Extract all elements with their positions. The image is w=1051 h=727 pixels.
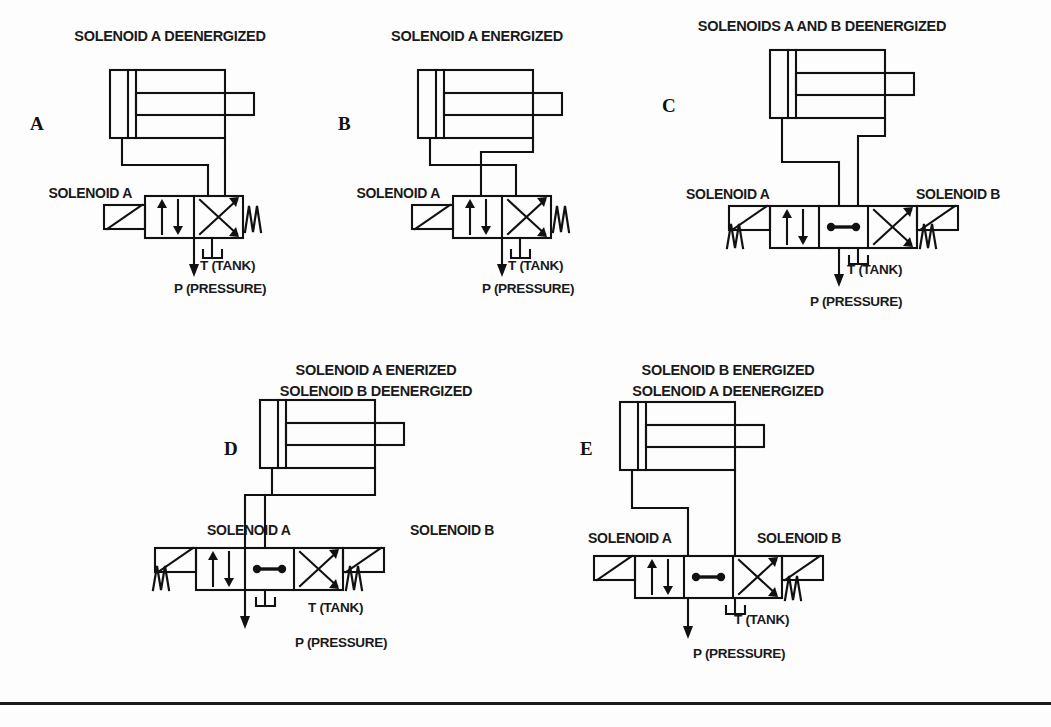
valve-b [412, 196, 569, 238]
plumbing-c [782, 118, 885, 206]
valve-d-box-crossed [300, 549, 339, 589]
ports-a [189, 238, 222, 277]
valve-e-box-crossed [739, 557, 778, 597]
valve-a-box-crossed [200, 197, 239, 237]
spring-b [553, 206, 569, 232]
cylinder-a [110, 70, 254, 138]
panel-c-schematic [600, 0, 1051, 330]
panel-a: SOLENOID A DEENERGIZED A SOLENOID A T (T… [0, 0, 330, 320]
valve-b-box-crossed [508, 197, 547, 237]
plumbing-d [245, 468, 375, 548]
solenoid-actuator-b [412, 205, 453, 229]
cylinder-b [418, 70, 562, 138]
ports-d [240, 590, 275, 629]
valve-c-box-parallel [782, 209, 808, 245]
valve-c-box-closed-center [827, 223, 860, 231]
valve-c [727, 206, 958, 248]
cylinder-d [260, 400, 404, 468]
solenoid-actuator-e-left [594, 556, 635, 580]
panel-c: SOLENOIDS A AND B DEENERGIZED C SOLENOID… [600, 0, 1051, 330]
plumbing-b [430, 138, 533, 196]
valve-d-box-closed-center [253, 565, 286, 573]
panel-e: SOLENOID B ENERGIZED SOLENOID A DEENERGI… [530, 350, 970, 680]
valve-c-box-crossed [874, 207, 913, 247]
solenoid-actuator-a [104, 205, 145, 229]
valve-e-box-parallel [647, 559, 673, 595]
spring-c-right [920, 224, 936, 248]
panel-b: SOLENOID A ENERGIZED B SOLENOID A T (TAN… [295, 0, 625, 320]
cylinder-c [770, 50, 914, 118]
panel-b-schematic [295, 0, 625, 320]
ports-b [497, 238, 530, 277]
spring-d-right [346, 566, 362, 590]
valve-d [153, 548, 384, 590]
cylinder-e [620, 402, 764, 470]
figure-plate: SOLENOID A DEENERGIZED A SOLENOID A T (T… [0, 0, 1051, 727]
solenoid-actuator-c-left [729, 206, 770, 230]
valve-a-box-parallel [157, 199, 183, 235]
panel-e-schematic [530, 350, 970, 680]
valve-d-box-parallel [208, 551, 234, 587]
ports-e [683, 598, 745, 639]
plumbing-e [632, 470, 735, 556]
panel-a-schematic [0, 0, 330, 320]
valve-a [104, 196, 261, 238]
valve-e-box-closed-center [692, 573, 725, 581]
ports-c [834, 248, 868, 287]
valve-b-box-parallel [465, 199, 491, 235]
bottom-rule [0, 702, 1051, 705]
valve-e [594, 556, 823, 600]
plumbing-a [122, 138, 225, 196]
solenoid-actuator-d-left [155, 548, 196, 572]
spring-a [245, 206, 261, 232]
